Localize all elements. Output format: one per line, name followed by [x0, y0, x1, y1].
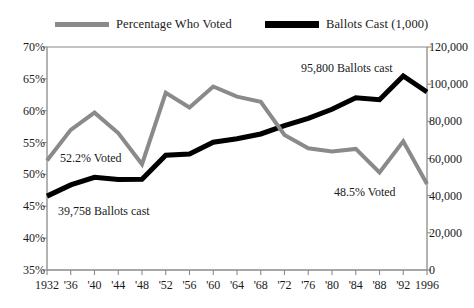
annotation-ballots-cast-1932: 39,758 Ballots cast [58, 205, 150, 218]
left-axis-tick-label: 55% [23, 137, 45, 149]
right-axis-tick-label: 80,000 [429, 115, 462, 127]
annotation-ballots-cast-1996: 95,800 Ballots cast [301, 62, 393, 75]
right-axis-tick-label: 60,000 [429, 153, 462, 165]
annotation-voted-1996: 48.5% Voted [334, 186, 396, 199]
left-axis-tick-label: 60% [23, 105, 45, 117]
annotation-voted-1932: 52.2% Voted [60, 152, 122, 165]
left-axis-tick-label: 45% [23, 200, 45, 212]
right-axis-tick-label: 0 [429, 264, 435, 276]
left-axis-tick-label: 35% [23, 264, 45, 276]
chart-container: Percentage Who Voted Ballots Cast (1,000… [0, 0, 474, 308]
left-axis-tick-label: 65% [23, 73, 45, 85]
left-axis-tick-label: 70% [23, 41, 45, 53]
left-axis-tick-label: 40% [23, 232, 45, 244]
series-line-ballots-cast [47, 76, 427, 196]
left-axis-tick-label: 50% [23, 168, 45, 180]
x-axis-tick-label: 1996 [405, 279, 449, 291]
right-axis-tick-label: 20,000 [429, 227, 462, 239]
right-axis-tick-label: 40,000 [429, 190, 462, 202]
x-axis-ticks [47, 270, 427, 275]
right-axis-tick-label: 100,000 [429, 78, 468, 90]
right-axis-tick-label: 120,000 [429, 41, 468, 53]
